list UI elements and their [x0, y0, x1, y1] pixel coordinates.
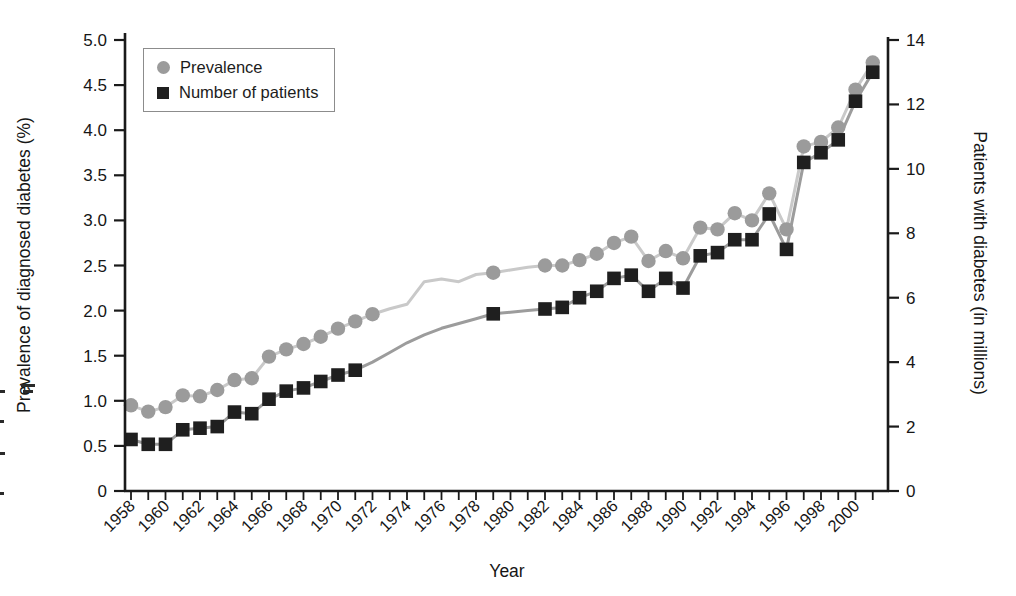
data-point [297, 381, 311, 395]
y-right-tick-label: 4 [906, 353, 915, 372]
x-tick-label: 1964 [203, 496, 242, 535]
data-point [176, 423, 190, 437]
data-point [590, 247, 604, 261]
diabetes-trend-figure: 00.51.01.52.02.53.03.54.04.55.0024681012… [0, 0, 1016, 596]
x-tick-label: 1990 [651, 496, 690, 535]
y-right-tick-label: 12 [906, 95, 925, 114]
data-point [745, 213, 759, 227]
x-tick-label: 1980 [479, 496, 518, 535]
data-point [573, 291, 587, 305]
y-axis-right-title: Patients with diabetes (in millions) [970, 131, 990, 395]
data-point [762, 186, 776, 200]
x-tick-label: 2000 [824, 496, 863, 535]
prevalence-circle-icon [157, 61, 170, 74]
x-tick-label: 1988 [617, 496, 656, 535]
data-point [262, 349, 276, 363]
data-point [814, 146, 828, 160]
data-point [314, 375, 328, 389]
scan-artifact [0, 492, 4, 495]
x-tick-label: 1996 [755, 496, 794, 535]
y-left-tick-label: 4.0 [83, 121, 107, 140]
y-right-tick-label: 6 [906, 289, 915, 308]
data-point [279, 384, 293, 398]
data-point [227, 373, 241, 387]
data-point [659, 272, 673, 286]
x-tick-label: 1984 [548, 496, 587, 535]
x-tick-label: 1992 [686, 496, 725, 535]
data-point [607, 236, 621, 250]
data-point [780, 243, 794, 257]
data-point [624, 268, 638, 282]
x-tick-label: 1958 [99, 496, 138, 535]
data-point [693, 220, 707, 234]
data-point [711, 246, 725, 260]
data-point [365, 307, 379, 321]
x-tick-label: 1974 [375, 496, 414, 535]
x-axis: 1958196019621964196619681970197219741976… [99, 491, 872, 535]
data-point [779, 222, 793, 236]
data-point [641, 254, 655, 268]
data-point [193, 389, 207, 403]
data-point [710, 222, 724, 236]
y-axis-left-title: Prevalence of diagnosed diabetes (%) [14, 117, 34, 413]
data-point [245, 407, 259, 421]
x-tick-label: 1960 [134, 496, 173, 535]
x-tick-label: 1982 [513, 496, 552, 535]
markers-number-of-patients [124, 65, 879, 451]
y-right-tick-label: 2 [906, 418, 915, 437]
x-tick-label: 1978 [444, 496, 483, 535]
y-axis-left: 00.51.01.52.02.53.03.54.04.55.0 [83, 31, 125, 501]
y-axis-right: 02468101214 [888, 31, 925, 501]
y-left-tick-label: 2.5 [83, 257, 107, 276]
data-point [659, 244, 673, 258]
y-left-tick-label: 3.0 [83, 211, 107, 230]
data-point [676, 281, 690, 295]
data-point [141, 404, 155, 418]
data-point [693, 249, 707, 263]
y-right-tick-label: 0 [906, 482, 915, 501]
data-point [158, 400, 172, 414]
y-left-tick-label: 0.5 [83, 437, 107, 456]
data-point [849, 94, 863, 108]
data-point [676, 251, 690, 265]
data-point [348, 314, 362, 328]
data-point [486, 307, 500, 321]
scan-artifact [0, 390, 5, 393]
legend-label-number-of-patients: Number of patients [179, 83, 318, 102]
chart-legend: Prevalence Number of patients [143, 48, 335, 112]
data-point [831, 133, 845, 147]
y-left-tick-label: 2.0 [83, 302, 107, 321]
data-point [728, 206, 742, 220]
legend-label-prevalence: Prevalence [180, 58, 263, 77]
data-point [555, 301, 569, 315]
data-point [331, 368, 345, 382]
data-point [607, 272, 621, 286]
data-point [331, 321, 345, 335]
data-point [314, 330, 328, 344]
data-point [228, 405, 242, 419]
y-left-tick-label: 4.5 [83, 76, 107, 95]
data-point [728, 233, 742, 247]
y-right-tick-label: 8 [906, 224, 915, 243]
series-number-of-patients [131, 72, 873, 444]
x-tick-label: 1976 [410, 496, 449, 535]
data-point [176, 388, 190, 402]
data-point [555, 258, 569, 272]
data-point [210, 383, 224, 397]
data-point [538, 302, 552, 316]
scan-artifact [21, 384, 35, 387]
y-right-tick-label: 10 [906, 160, 925, 179]
y-left-tick-label: 0 [98, 482, 107, 501]
data-point [590, 284, 604, 298]
data-point [642, 284, 656, 298]
data-point [762, 207, 776, 221]
data-point [193, 421, 207, 435]
x-tick-label: 1986 [582, 496, 621, 535]
data-point [159, 437, 173, 451]
y-left-tick-label: 1.0 [83, 392, 107, 411]
x-tick-label: 1994 [720, 496, 759, 535]
data-point [279, 342, 293, 356]
x-tick-label: 1970 [306, 496, 345, 535]
data-point [296, 337, 310, 351]
data-point [745, 233, 759, 247]
